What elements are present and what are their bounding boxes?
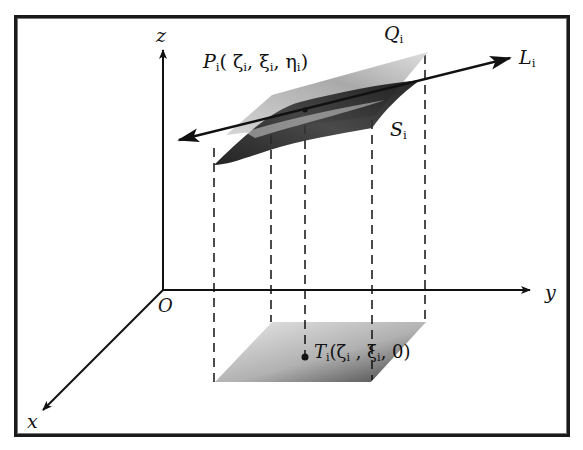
y-axis-label: y — [545, 283, 556, 302]
z-axis-label: z — [156, 26, 166, 45]
x-axis-label: x — [27, 412, 38, 431]
line-L-label: Li — [519, 48, 535, 70]
point-T-label: Ti(ζi , ξi, 0) — [314, 343, 411, 363]
point-P-label: Pi( ζi, ξi, ηi) — [203, 52, 308, 74]
point-P — [303, 108, 308, 113]
origin-label: O — [158, 297, 173, 315]
plane-Q-label: Qi — [384, 24, 403, 46]
point-T — [302, 354, 309, 361]
surface-S-label: Si — [390, 120, 407, 142]
x-axis — [43, 290, 163, 410]
